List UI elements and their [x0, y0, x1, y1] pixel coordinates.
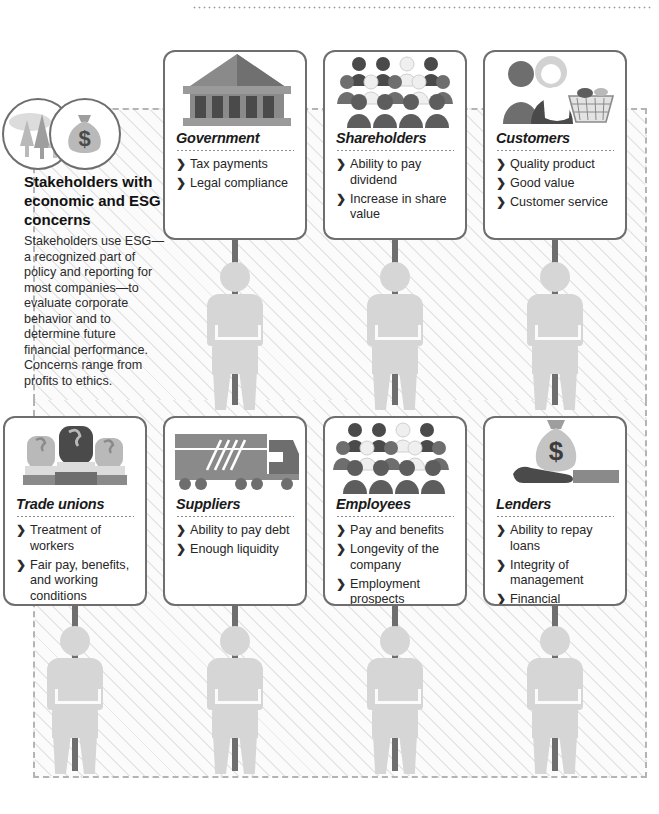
card-title: Employees	[336, 496, 454, 512]
list-item: ❯Tax payments	[176, 157, 294, 173]
list-item: ❯Good value	[496, 176, 614, 192]
list-item-label: Tax payments	[190, 157, 268, 171]
chevron-bullet-icon: ❯	[16, 523, 26, 539]
shoppers-with-basket-icon	[485, 52, 625, 130]
intro-text-block: Stakeholders with economic and ESG conce…	[24, 172, 164, 389]
list-item-label: Quality product	[510, 157, 595, 171]
card-bullet-list: ❯Ability to pay debt ❯Enough liquidity	[176, 523, 294, 558]
svg-text:$: $	[78, 126, 90, 151]
chevron-bullet-icon: ❯	[336, 542, 346, 558]
intro-heading: Stakeholders with economic and ESG conce…	[24, 172, 164, 229]
card-bullet-list: ❯Ability to repay loans ❯Integrity of ma…	[496, 523, 614, 606]
list-item-label: Customer service	[510, 195, 608, 209]
top-dotted-rule	[192, 6, 652, 9]
list-item: ❯Customer service	[496, 195, 614, 211]
list-item-label: Integrity of management	[510, 558, 584, 588]
list-item-label: Financial strengths of the company	[510, 592, 597, 606]
title-dotted-rule	[336, 149, 454, 152]
title-dotted-rule	[336, 515, 454, 518]
chevron-bullet-icon: ❯	[16, 558, 26, 574]
list-item-label: Pay and benefits	[350, 523, 444, 537]
ghost-person	[363, 258, 427, 410]
card-customers[interactable]: Customers ❯Quality product ❯Good value ❯…	[483, 50, 627, 240]
ghost-person	[43, 622, 107, 774]
ghost-person	[523, 622, 587, 774]
ghost-person	[363, 622, 427, 774]
title-dotted-rule	[176, 515, 294, 518]
government-building-icon	[165, 52, 305, 130]
intro-body: Stakeholders use ESG—a recognized part o…	[24, 234, 164, 389]
chevron-bullet-icon: ❯	[176, 176, 186, 192]
list-item-label: Fair pay, benefits, and working conditio…	[30, 558, 129, 603]
crowd-of-people-icon	[325, 418, 465, 496]
chevron-bullet-icon: ❯	[176, 157, 186, 173]
list-item: ❯Treatment of workers	[16, 523, 134, 554]
list-item: ❯Enough liquidity	[176, 542, 294, 558]
title-dotted-rule	[176, 149, 294, 152]
list-item-label: Enough liquidity	[190, 542, 279, 556]
list-item-label: Ability to repay loans	[510, 523, 593, 553]
card-title: Lenders	[496, 496, 614, 512]
card-government[interactable]: Government ❯Tax payments ❯Legal complian…	[163, 50, 307, 240]
card-employees[interactable]: Employees ❯Pay and benefits ❯Longevity o…	[323, 416, 467, 606]
list-item-label: Ability to pay dividend	[350, 157, 421, 187]
list-item: ❯Longevity of the company	[336, 542, 454, 573]
chevron-bullet-icon: ❯	[176, 542, 186, 558]
chevron-bullet-icon: ❯	[336, 192, 346, 208]
title-dotted-rule	[496, 149, 614, 152]
chevron-bullet-icon: ❯	[336, 157, 346, 173]
money-bag-icon: $	[49, 98, 121, 170]
svg-text:$: $	[549, 436, 564, 466]
list-item-label: Employment prospects	[350, 577, 420, 606]
card-bullet-list: ❯Treatment of workers ❯Fair pay, benefit…	[16, 523, 134, 604]
list-item: ❯Quality product	[496, 157, 614, 173]
card-title: Government	[176, 130, 294, 146]
card-title: Suppliers	[176, 496, 294, 512]
list-item-label: Ability to pay debt	[190, 523, 289, 537]
ghost-person	[203, 258, 267, 410]
chevron-bullet-icon: ❯	[176, 523, 186, 539]
list-item: ❯Pay and benefits	[336, 523, 454, 539]
list-item: ❯Integrity of management	[496, 558, 614, 589]
ghost-person	[523, 258, 587, 410]
list-item-label: Treatment of workers	[30, 523, 101, 553]
title-dotted-rule	[496, 515, 614, 518]
chevron-bullet-icon: ❯	[336, 523, 346, 539]
delivery-truck-icon	[165, 418, 305, 496]
chevron-bullet-icon: ❯	[496, 558, 506, 574]
card-trade-unions[interactable]: Trade unions ❯Treatment of workers ❯Fair…	[3, 416, 147, 606]
chevron-bullet-icon: ❯	[496, 195, 506, 211]
list-item: ❯Ability to pay debt	[176, 523, 294, 539]
list-item-label: Legal compliance	[190, 176, 288, 190]
card-title: Customers	[496, 130, 614, 146]
list-item-label: Increase in share value	[350, 192, 447, 222]
card-bullet-list: ❯Pay and benefits ❯Longevity of the comp…	[336, 523, 454, 606]
card-title: Shareholders	[336, 130, 454, 146]
list-item: ❯Legal compliance	[176, 176, 294, 192]
list-item: ❯Financial strengths of the company	[496, 592, 614, 606]
stakeholder-diagram: $ Stakeholders with economic and ESG con…	[0, 0, 659, 814]
title-dotted-rule	[16, 515, 134, 518]
chevron-bullet-icon: ❯	[336, 577, 346, 593]
list-item: ❯Ability to pay dividend	[336, 157, 454, 188]
list-item: ❯Fair pay, benefits, and working conditi…	[16, 558, 134, 605]
list-item: ❯Ability to repay loans	[496, 523, 614, 554]
raised-fists-icon	[5, 418, 145, 496]
card-suppliers[interactable]: Suppliers ❯Ability to pay debt ❯Enough l…	[163, 416, 307, 606]
hand-holding-money-bag-icon: $	[485, 418, 625, 496]
card-bullet-list: ❯Quality product ❯Good value ❯Customer s…	[496, 157, 614, 211]
chevron-bullet-icon: ❯	[496, 176, 506, 192]
list-item: ❯Increase in share value	[336, 192, 454, 223]
card-lenders[interactable]: $ Lenders ❯Ability to repay loans ❯Integ…	[483, 416, 627, 606]
card-bullet-list: ❯Tax payments ❯Legal compliance	[176, 157, 294, 192]
chevron-bullet-icon: ❯	[496, 157, 506, 173]
chevron-bullet-icon: ❯	[496, 523, 506, 539]
ghost-person	[203, 622, 267, 774]
list-item: ❯Employment prospects	[336, 577, 454, 606]
list-item-label: Good value	[510, 176, 574, 190]
list-item-label: Longevity of the company	[350, 542, 439, 572]
card-bullet-list: ❯Ability to pay dividend ❯Increase in sh…	[336, 157, 454, 223]
chevron-bullet-icon: ❯	[496, 592, 506, 606]
card-title: Trade unions	[16, 496, 134, 512]
card-shareholders[interactable]: Shareholders ❯Ability to pay dividend ❯I…	[323, 50, 467, 240]
